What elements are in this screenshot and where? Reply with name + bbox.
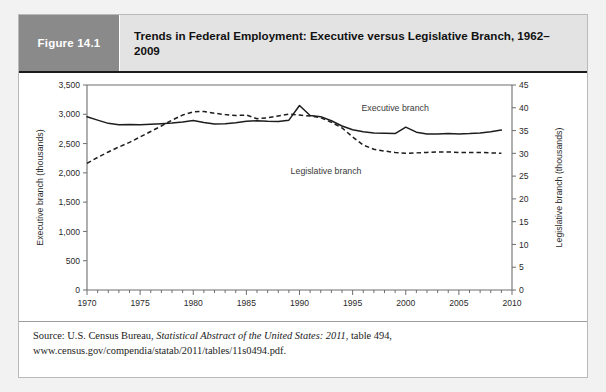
chart-text: 1970 <box>77 298 96 308</box>
source-block: Source: U.S. Census Bureau, Statistical … <box>19 321 587 377</box>
chart-text: 10 <box>519 240 529 250</box>
chart-text: 1980 <box>184 298 203 308</box>
source-note: Source: U.S. Census Bureau, Statistical … <box>33 329 573 358</box>
left-axis: 05001,0001,5002,0002,5003,0003,500Execut… <box>35 80 512 295</box>
chart-area: 05001,0001,5002,0002,5003,0003,500Execut… <box>19 73 587 321</box>
chart-text: 500 <box>66 256 81 266</box>
chart-text: 30 <box>519 149 529 159</box>
chart-text: 3,500 <box>58 80 80 90</box>
chart-text: Executive branch (thousands) <box>35 129 45 245</box>
chart-text: 25 <box>519 171 529 181</box>
chart-text: 1985 <box>237 298 256 308</box>
chart-text: 5 <box>519 262 524 272</box>
chart-text: 15 <box>519 217 529 227</box>
chart-text: 1990 <box>290 298 309 308</box>
chart-text: 0 <box>75 285 80 295</box>
right-axis: 051015202530354045Legislative branch (th… <box>512 80 564 295</box>
figure-container: Figure 14.1 Trends in Federal Employment… <box>18 14 588 378</box>
figure-number-block: Figure 14.1 <box>19 15 119 71</box>
series-line-legislative-branch <box>87 111 501 163</box>
chart-text: 0 <box>519 285 524 295</box>
chart-text: 45 <box>519 80 529 90</box>
chart-text: 1,000 <box>58 227 80 237</box>
figure-header: Figure 14.1 Trends in Federal Employment… <box>19 15 587 73</box>
annotation-legislative-branch: Legislative branch <box>291 166 362 176</box>
chart-text: Legislative branch (thousands) <box>554 128 564 248</box>
chart-text: 1995 <box>343 298 362 308</box>
chart-text: 2000 <box>396 298 415 308</box>
chart-text: 2,500 <box>58 139 80 149</box>
chart-text: 2005 <box>449 298 468 308</box>
chart-text: 1,500 <box>58 197 80 207</box>
chart-text: 1975 <box>131 298 150 308</box>
chart-text: 20 <box>519 194 529 204</box>
dual-axis-line-chart: 05001,0001,5002,0002,5003,0003,500Execut… <box>19 73 587 321</box>
chart-text: 40 <box>519 103 529 113</box>
chart-text: 2010 <box>502 298 521 308</box>
source-italic-title: Statistical Abstract of the United State… <box>156 330 346 341</box>
chart-text: 2,000 <box>58 168 80 178</box>
x-axis: 197019751980198519901995200020052010 <box>77 290 521 308</box>
chart-text: 3,000 <box>58 109 80 119</box>
series-annotations: Executive branchLegislative branch <box>291 103 429 176</box>
series-lines <box>87 106 501 164</box>
figure-title: Trends in Federal Employment: Executive … <box>134 28 575 58</box>
series-line-executive-branch <box>87 106 501 134</box>
source-prefix: Source: U.S. Census Bureau, <box>33 330 156 341</box>
chart-text: 35 <box>519 126 529 136</box>
figure-title-block: Trends in Federal Employment: Executive … <box>119 15 587 71</box>
figure-number-label: Figure 14.1 <box>38 37 101 49</box>
annotation-executive-branch: Executive branch <box>361 103 429 113</box>
